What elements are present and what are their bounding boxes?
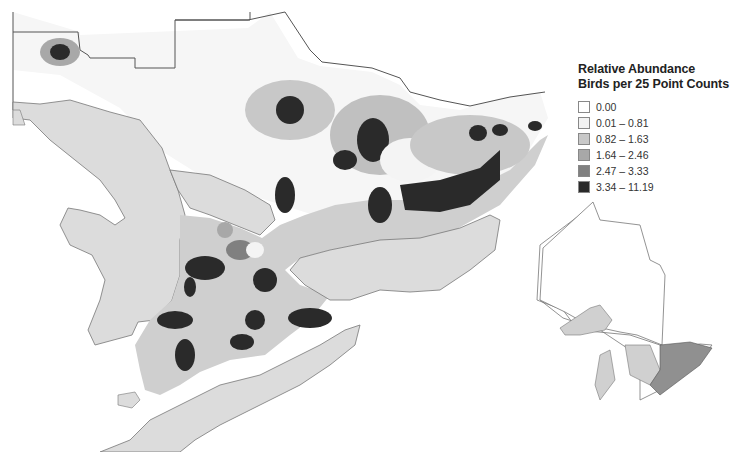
abundance-patch bbox=[230, 334, 254, 350]
abundance-patch bbox=[333, 150, 357, 170]
legend-swatch bbox=[578, 181, 590, 193]
legend-swatch bbox=[578, 149, 590, 161]
legend-label: 0.82 – 1.63 bbox=[596, 133, 649, 145]
legend-item: 1.64 – 2.46 bbox=[578, 147, 732, 163]
abundance-patch bbox=[184, 277, 196, 297]
abundance-patch bbox=[288, 308, 332, 328]
abundance-patch bbox=[157, 311, 193, 329]
legend-item: 3.34 – 11.19 bbox=[578, 179, 732, 195]
legend-item: 0.82 – 1.63 bbox=[578, 131, 732, 147]
legend-label: 2.47 – 3.33 bbox=[596, 165, 649, 177]
legend-title: Relative Abundance bbox=[578, 62, 732, 77]
legend-label: 3.34 – 11.19 bbox=[596, 181, 654, 193]
legend: Relative Abundance Birds per 25 Point Co… bbox=[578, 62, 732, 195]
abundance-patch bbox=[276, 96, 304, 124]
abundance-patch bbox=[469, 125, 487, 141]
inset-map bbox=[537, 202, 712, 400]
abundance-patch bbox=[246, 242, 264, 258]
legend-items: 0.00 0.01 – 0.81 0.82 – 1.63 1.64 – 2.46… bbox=[578, 99, 732, 195]
legend-item: 2.47 – 3.33 bbox=[578, 163, 732, 179]
legend-swatch bbox=[578, 133, 590, 145]
abundance-patch bbox=[492, 124, 508, 136]
legend-swatch bbox=[578, 165, 590, 177]
legend-label: 1.64 – 2.46 bbox=[596, 149, 649, 161]
abundance-patch bbox=[275, 177, 295, 213]
abundance-patch bbox=[245, 310, 265, 330]
abundance-patch bbox=[368, 187, 392, 223]
inset-lake-michigan bbox=[595, 350, 615, 400]
legend-label: 0.00 bbox=[596, 101, 616, 113]
legend-item: 0.00 bbox=[578, 99, 732, 115]
abundance-patch bbox=[50, 44, 70, 60]
abundance-patch bbox=[175, 339, 195, 371]
legend-subtitle: Birds per 25 Point Counts bbox=[578, 77, 732, 92]
legend-swatch bbox=[578, 101, 590, 113]
legend-item: 0.01 – 0.81 bbox=[578, 115, 732, 131]
abundance-patch bbox=[185, 256, 225, 280]
abundance-patch bbox=[410, 115, 530, 175]
legend-label: 0.01 – 0.81 bbox=[596, 117, 649, 129]
legend-swatch bbox=[578, 117, 590, 129]
abundance-patch bbox=[253, 268, 277, 292]
abundance-patch bbox=[217, 222, 233, 238]
abundance-patch bbox=[528, 121, 542, 131]
